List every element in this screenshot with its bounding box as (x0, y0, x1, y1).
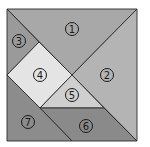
piece-label: 2 (104, 70, 110, 81)
piece-label: 1 (69, 24, 75, 35)
piece-label: 5 (69, 90, 75, 101)
piece-label: 6 (83, 121, 89, 132)
tangram-diagram: 1234567 (0, 0, 150, 147)
piece-label: 4 (37, 70, 43, 81)
piece-label: 3 (16, 36, 22, 47)
piece-label: 7 (25, 117, 31, 128)
